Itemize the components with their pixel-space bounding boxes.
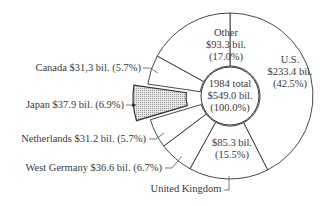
callout-canada: Canada $31,3 bil. (5.7%) — [35, 62, 141, 74]
label-uk-value: $85.3 bil.(15.5%) — [212, 137, 252, 161]
callout-uk: United Kingdom — [151, 183, 222, 194]
center-label: 1984 total$549.0 bil.(100.0%) — [207, 78, 252, 114]
callout-netherlands: Netherlands $31.2 bil. (5.7%) — [21, 133, 146, 145]
donut-chart: 1984 total$549.0 bil.(100.0%)U.S.$233.4 … — [0, 0, 331, 206]
callout-japan: Japan $37.9 bil. (6.9%) — [26, 99, 124, 111]
callout-west-germany: West Germany $36.6 bil. (6.7%) — [26, 162, 163, 174]
